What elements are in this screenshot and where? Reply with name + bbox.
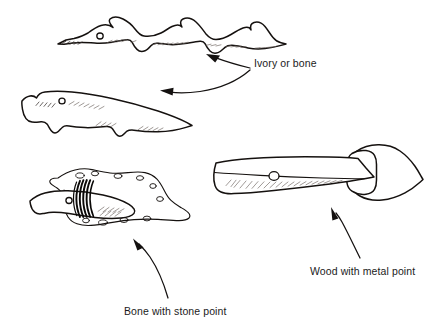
artifact-barbed-bone-point [58, 17, 286, 53]
leader-ivory-to-barbed-point [206, 54, 250, 68]
label-bone-with-stone-point: Bone with stone point [124, 305, 227, 317]
projectile-points-diagram: Ivory or bone Bone with stone point Wood… [0, 0, 446, 331]
leader-metal-to-artifact [331, 207, 360, 258]
leader-ivory-to-curved-point [160, 70, 250, 96]
artifact-wood-shaft-metal-blade [214, 145, 423, 200]
artifact-curved-bone-point [22, 91, 192, 136]
diagram-illustration [0, 0, 446, 331]
leader-stone-to-artifact [133, 239, 168, 299]
curved-point-line-hole [59, 98, 65, 104]
artifact-bone-shaft-stone-blade [30, 169, 190, 226]
label-ivory-or-bone: Ivory or bone [254, 57, 317, 69]
curved-point-outline [22, 91, 192, 136]
barbed-point-outline [58, 17, 286, 53]
label-wood-with-metal-point: Wood with metal point [310, 265, 415, 277]
wood-shaft-line-hole [269, 172, 279, 181]
bone-foreshaft-line-hole [66, 198, 72, 204]
barbed-point-line-hole [97, 33, 103, 39]
